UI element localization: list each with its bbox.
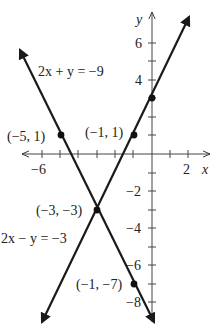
y-tick-label-neg8: −8 [126,295,141,310]
x-tick-label-neg6: −6 [31,162,46,177]
y-axis-label: y [134,12,143,27]
point-neg3-neg3 [94,207,101,214]
point-label-neg3-neg3: (−3, −3) [36,203,82,219]
x-axis-label: x [201,162,209,177]
y-tick-label-4: 4 [135,73,142,88]
x-axis: −6 2 x [22,150,210,177]
linear-system-graph: −6 2 x y 6 4 −2 −4 −6 −8 [0,0,222,326]
point-neg5-1 [58,132,65,139]
y-tick-label-6: 6 [135,36,142,51]
y-tick-label-neg4: −4 [126,221,141,236]
point-0-3 [149,95,156,102]
point-neg1-1 [131,132,138,139]
equation-label-1: 2x + y = −9 [38,64,104,79]
equation-label-2-text: 2x − y = −3 [1,231,67,246]
x-tick-label-2: 2 [183,162,190,177]
point-label-neg5-1: (−5, 1) [7,129,46,145]
point-label-neg1-neg7: (−1, −7) [76,277,122,293]
point-label-neg1-1: (−1, 1) [85,125,124,141]
point-neg1-neg7 [131,281,138,288]
y-tick-label-neg2: −2 [126,184,141,199]
